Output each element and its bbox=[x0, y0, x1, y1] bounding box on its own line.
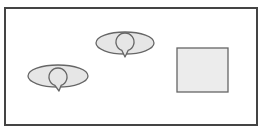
square-shape bbox=[177, 48, 228, 92]
diagram-canvas bbox=[0, 0, 259, 130]
